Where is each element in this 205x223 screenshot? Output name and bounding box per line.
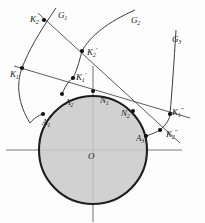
point-K2 (42, 18, 46, 22)
point-N2 (131, 109, 135, 113)
point-K1 (20, 66, 24, 70)
label-G1: G1 (58, 11, 68, 20)
label-K1: K1 (10, 70, 19, 79)
label-G2: G2 (131, 16, 141, 25)
curve-g3 (146, 30, 176, 136)
label-K1-sub: 1 (16, 73, 19, 80)
label-O-base: O (88, 151, 95, 161)
point-A2 (60, 92, 64, 96)
curve-g1 (19, 8, 56, 123)
label-O: O (88, 152, 95, 161)
label-K2-sub: 2 (36, 18, 39, 25)
label-K2dprime-sup: ″ (175, 128, 178, 136)
point-A1 (41, 112, 45, 116)
point-N1 (91, 89, 95, 93)
curve-g2 (62, 10, 135, 94)
label-A2-sub: 2 (70, 101, 73, 108)
label-A1: A1 (42, 118, 51, 127)
label-A3: A3 (136, 134, 145, 143)
point-A3 (144, 134, 148, 138)
label-A3-sub: 3 (141, 137, 144, 144)
label-K2prime: K2′ (87, 48, 98, 57)
label-N1-sub: 1 (106, 99, 109, 106)
point-K1prime (71, 76, 75, 80)
label-G2-sub: 2 (137, 19, 140, 26)
label-K1dprime-sup: ″ (181, 106, 184, 114)
label-K2dprime: K2″ (166, 130, 178, 139)
label-N1: N1 (100, 96, 109, 105)
geometry-figure: K2 G1 G2 G3 K2′ K1 K1′ A2 N1 N2 A1 K1″ K… (0, 0, 205, 223)
label-N2: N2 (121, 109, 130, 118)
label-A1-sub: 1 (47, 121, 50, 128)
label-N2-sub: 2 (127, 112, 130, 119)
label-K2: K2 (30, 15, 39, 24)
main-circle (39, 96, 147, 204)
point-K2dprime (158, 128, 162, 132)
label-A2: A2 (65, 98, 74, 107)
label-K1prime: K1′ (76, 73, 87, 82)
label-G1-sub: 1 (64, 14, 67, 21)
point-K2prime (80, 49, 84, 53)
label-K1dprime: K1″ (172, 108, 184, 117)
label-G3: G3 (172, 35, 182, 44)
label-G3-sub: 3 (178, 38, 181, 45)
